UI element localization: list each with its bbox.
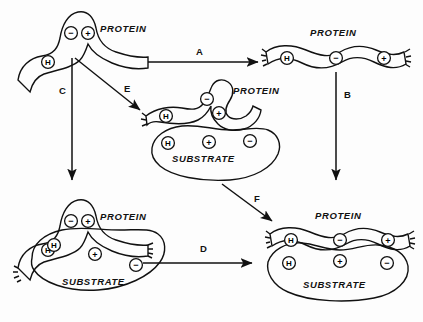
protein-substrate-diagram: − + H PROTEIN H − + PROTEIN <box>0 0 423 322</box>
svg-text:+: + <box>85 29 90 39</box>
charge-badge-h: H <box>42 56 55 69</box>
charge-badge-h-substrate: H <box>283 257 296 270</box>
svg-text:−: − <box>68 216 73 226</box>
svg-text:H: H <box>286 259 292 268</box>
svg-text:H: H <box>45 58 51 67</box>
substrate-label: SUBSTRATE <box>303 279 366 290</box>
charge-badge-h-substrate: H <box>162 137 175 150</box>
protein-label: PROTEIN <box>100 23 147 34</box>
arrow-label-f: F <box>254 193 260 204</box>
svg-text:−: − <box>384 258 389 268</box>
svg-text:+: + <box>381 54 386 64</box>
charge-badge-minus: − <box>330 52 343 65</box>
charge-badge-plus-substrate: + <box>334 255 347 268</box>
substrate-label: SUBSTRATE <box>62 276 125 287</box>
charge-badge-h-protein: H <box>285 234 298 247</box>
charge-badge-minus-substrate: − <box>381 257 394 270</box>
charge-badge-plus-protein: + <box>82 215 95 228</box>
svg-text:H: H <box>288 236 294 245</box>
charge-badge-h-protein: H <box>160 110 173 123</box>
svg-text:+: + <box>216 109 221 119</box>
arrow-label-e: E <box>124 83 130 94</box>
charge-badge-plus: + <box>82 27 95 40</box>
svg-text:−: − <box>337 235 342 245</box>
protein-label: PROTEIN <box>100 211 147 222</box>
svg-text:−: − <box>333 53 338 63</box>
charge-badge-minus-substrate: − <box>130 259 143 272</box>
arrow-label-d: D <box>200 243 207 254</box>
arrow-label-a: A <box>196 46 203 57</box>
svg-text:+: + <box>385 236 390 246</box>
charge-badge-h-substrate-main: H <box>48 239 61 252</box>
svg-text:H: H <box>163 112 169 121</box>
charge-badge-plus: + <box>378 52 391 65</box>
charge-badge-plus-substrate: + <box>89 248 102 261</box>
substrate-label: SUBSTRATE <box>172 153 235 164</box>
svg-text:−: − <box>204 94 209 104</box>
arrow-label-c: C <box>59 85 66 96</box>
protein-label: PROTEIN <box>233 85 280 96</box>
charge-badge-plus-substrate: + <box>203 136 216 149</box>
protein-label: PROTEIN <box>310 27 357 38</box>
svg-text:+: + <box>85 217 90 227</box>
charge-badge-minus-substrate: − <box>244 135 257 148</box>
figure-canvas: − + H PROTEIN H − + PROTEIN <box>0 0 423 322</box>
charge-badge-minus-protein: − <box>334 234 347 247</box>
charge-badge-plus-protein: + <box>213 107 226 120</box>
charge-badge-plus-protein: + <box>382 234 395 247</box>
protein-label: PROTEIN <box>315 210 362 221</box>
svg-text:+: + <box>206 138 211 148</box>
svg-text:−: − <box>133 260 138 270</box>
svg-text:+: + <box>92 250 97 260</box>
arrow-label-b: B <box>344 89 351 100</box>
svg-text:H: H <box>51 241 57 250</box>
charge-badge-minus: − <box>65 27 78 40</box>
charge-badge-h: H <box>281 52 294 65</box>
svg-text:−: − <box>247 136 252 146</box>
charge-badge-minus-protein: − <box>201 93 214 106</box>
svg-text:−: − <box>68 28 73 38</box>
svg-text:H: H <box>165 139 171 148</box>
charge-badge-minus-protein: − <box>65 215 78 228</box>
svg-text:H: H <box>284 54 290 63</box>
svg-text:+: + <box>337 257 342 267</box>
